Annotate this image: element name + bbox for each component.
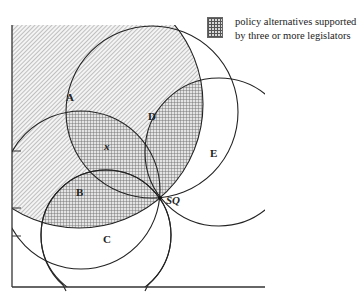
label-D: D — [148, 110, 156, 122]
label-SQ: SQ — [166, 194, 180, 206]
legend-label: policy alternatives supported by three o… — [235, 15, 358, 42]
legend: policy alternatives supported by three o… — [207, 15, 358, 42]
label-A: A — [66, 91, 74, 103]
label-x: x — [103, 140, 110, 152]
label-E: E — [210, 147, 217, 159]
label-C: C — [103, 233, 111, 245]
status-quo-point — [158, 196, 162, 200]
label-B: B — [76, 186, 84, 198]
legend-grid-swatch-icon — [207, 17, 223, 38]
spatial-voting-diagram: A D x E B C SQ — [0, 0, 358, 298]
